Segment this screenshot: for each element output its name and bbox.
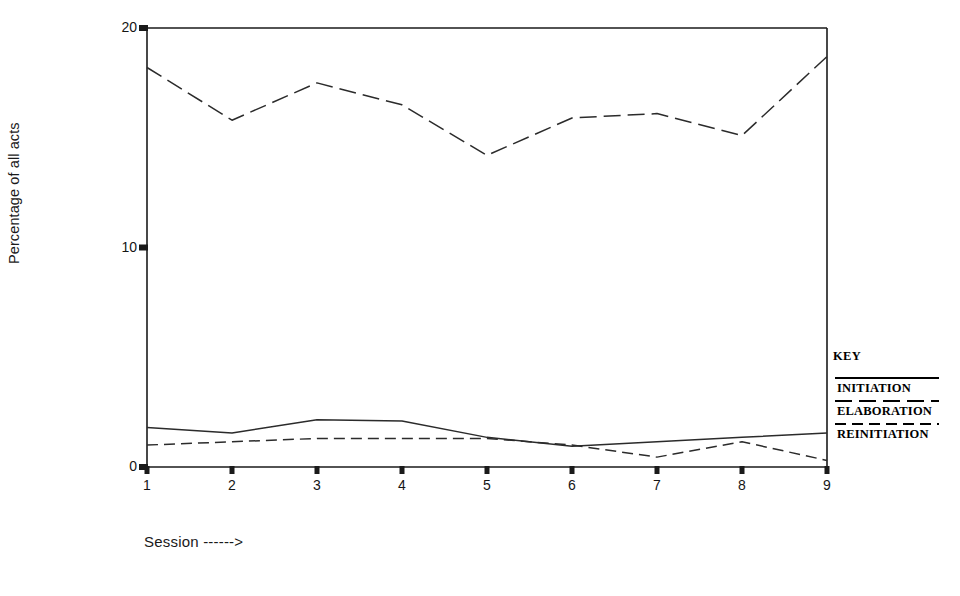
legend-title: KEY: [833, 349, 955, 364]
legend-label: ELABORATION: [837, 404, 955, 419]
legend-item-initiation: INITIATION: [833, 374, 955, 396]
series-line-reinitiation: [147, 438, 827, 460]
x-tick-label: 6: [552, 477, 592, 493]
chart-figure: Percentage of all acts Session ------> 0…: [0, 0, 960, 596]
x-axis-title: Session ------>: [144, 533, 243, 550]
data-series-group: [147, 57, 827, 461]
y-axis-title-container: Percentage of all acts: [0, 0, 60, 596]
legend-item-reinitiation: REINITIATION: [833, 420, 955, 442]
legend: KEY INITIATIONELABORATIONREINITIATION: [833, 349, 955, 443]
legend-label: INITIATION: [837, 381, 955, 396]
x-tick-mark: [825, 466, 830, 474]
x-tick-label: 5: [467, 477, 507, 493]
x-tick-mark: [655, 466, 660, 474]
x-tick-mark: [740, 466, 745, 474]
legend-entries: INITIATIONELABORATIONREINITIATION: [833, 374, 955, 442]
y-tick-label: 20: [95, 19, 137, 35]
x-tick-mark: [570, 466, 575, 474]
x-tick-mark: [485, 466, 490, 474]
axis-ticks: [139, 25, 830, 474]
plot-area: [0, 0, 960, 596]
x-tick-mark: [400, 466, 405, 474]
x-tick-label: 1: [127, 477, 167, 493]
legend-item-elaboration: ELABORATION: [833, 397, 955, 419]
series-line-elaboration: [147, 57, 827, 156]
y-axis-title: Percentage of all acts: [6, 44, 22, 264]
y-tick-mark: [139, 25, 148, 31]
plot-frame: [147, 28, 827, 467]
series-line-initiation: [147, 420, 827, 446]
legend-label: REINITIATION: [837, 427, 955, 442]
x-tick-label: 8: [722, 477, 762, 493]
x-tick-mark: [145, 466, 150, 474]
x-tick-label: 9: [807, 477, 847, 493]
x-tick-label: 2: [212, 477, 252, 493]
x-tick-label: 3: [297, 477, 337, 493]
x-tick-mark: [315, 466, 320, 474]
x-tick-mark: [230, 466, 235, 474]
y-tick-label: 0: [95, 458, 137, 474]
y-tick-label: 10: [95, 239, 137, 255]
y-tick-mark: [139, 245, 148, 251]
x-tick-label: 4: [382, 477, 422, 493]
x-tick-label: 7: [637, 477, 677, 493]
